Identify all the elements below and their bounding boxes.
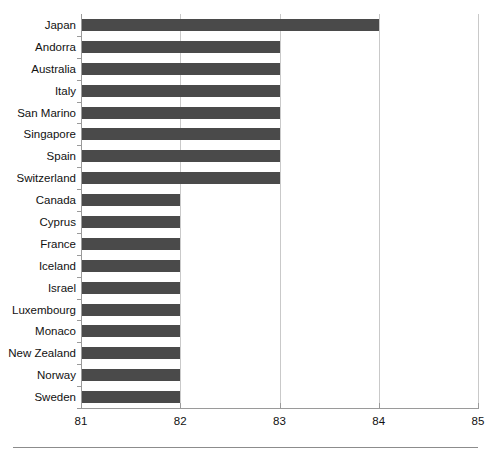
bar bbox=[81, 63, 280, 75]
gridline-83 bbox=[280, 14, 281, 408]
category-label: France bbox=[0, 238, 76, 250]
category-label: Israel bbox=[0, 282, 76, 294]
category-label: New Zealand bbox=[0, 347, 76, 359]
x-tick bbox=[81, 403, 82, 409]
bar bbox=[81, 347, 180, 359]
category-label: Spain bbox=[0, 150, 76, 162]
category-label: San Marino bbox=[0, 107, 76, 119]
bar bbox=[81, 325, 180, 337]
bar bbox=[81, 260, 180, 272]
bar bbox=[81, 282, 180, 294]
category-label: Monaco bbox=[0, 325, 76, 337]
bar bbox=[81, 238, 180, 250]
category-label: Japan bbox=[0, 19, 76, 31]
x-tick bbox=[478, 403, 479, 409]
x-tick-label: 82 bbox=[160, 415, 200, 427]
category-label: Sweden bbox=[0, 391, 76, 403]
y-axis-line bbox=[81, 14, 82, 408]
bar bbox=[81, 172, 280, 184]
gridline-85 bbox=[478, 14, 479, 408]
gridline-84 bbox=[379, 14, 380, 408]
category-label: Canada bbox=[0, 194, 76, 206]
category-label: Australia bbox=[0, 63, 76, 75]
category-label: Andorra bbox=[0, 41, 76, 53]
bar bbox=[81, 391, 180, 403]
category-label: Iceland bbox=[0, 260, 76, 272]
category-label: Norway bbox=[0, 369, 76, 381]
x-tick-label: 81 bbox=[61, 415, 101, 427]
bar bbox=[81, 19, 379, 31]
category-axis-labels: JapanAndorraAustraliaItalySan MarinoSing… bbox=[0, 14, 76, 408]
category-label: Switzerland bbox=[0, 172, 76, 184]
bottom-divider-rule bbox=[13, 447, 478, 448]
bar bbox=[81, 150, 280, 162]
x-tick-label: 84 bbox=[359, 415, 399, 427]
bar bbox=[81, 369, 180, 381]
x-tick bbox=[379, 403, 380, 409]
bar bbox=[81, 216, 180, 228]
bar bbox=[81, 107, 280, 119]
category-label: Singapore bbox=[0, 128, 76, 140]
bar bbox=[81, 194, 180, 206]
bar bbox=[81, 41, 280, 53]
x-tick-label: 85 bbox=[458, 415, 495, 427]
x-tick bbox=[280, 403, 281, 409]
bar bbox=[81, 304, 180, 316]
category-label: Cyprus bbox=[0, 216, 76, 228]
x-tick-label: 83 bbox=[260, 415, 300, 427]
category-label: Luxembourg bbox=[0, 304, 76, 316]
bar bbox=[81, 128, 280, 140]
plot-area bbox=[81, 14, 478, 408]
x-tick bbox=[180, 403, 181, 409]
category-label: Italy bbox=[0, 85, 76, 97]
bar-chart: JapanAndorraAustraliaItalySan MarinoSing… bbox=[0, 0, 495, 459]
bar bbox=[81, 85, 280, 97]
